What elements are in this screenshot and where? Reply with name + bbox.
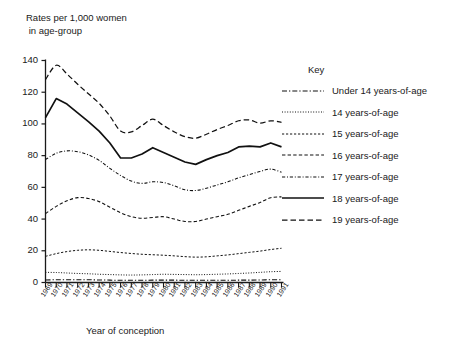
- series-line: [46, 271, 282, 275]
- legend-item: 15 years-of-age: [282, 123, 450, 145]
- legend-line-swatch: [282, 129, 324, 139]
- legend-item-label: 15 years-of-age: [332, 128, 399, 139]
- y-tick-label: 60: [12, 181, 38, 192]
- legend-line-swatch: [282, 107, 324, 117]
- series-line: [46, 99, 282, 165]
- legend-line-swatch: [282, 215, 324, 225]
- legend-line-swatch: [282, 193, 324, 203]
- legend-item-label: 19 years-of-age: [332, 214, 399, 225]
- y-tick-label: 0: [12, 276, 38, 287]
- series-line: [46, 248, 282, 257]
- axes: [46, 60, 284, 283]
- x-axis-label: Year of conception: [86, 325, 164, 336]
- legend-item-label: 17 years-of-age: [332, 171, 399, 182]
- series-line: [46, 280, 282, 281]
- y-tick-label: 100: [12, 117, 38, 128]
- series-line: [46, 197, 282, 222]
- legend-item-label: Under 14 years-of-age: [332, 85, 427, 96]
- legend-line-swatch: [282, 86, 324, 96]
- y-tick-label: 140: [12, 54, 38, 65]
- legend-title: Key: [308, 64, 324, 75]
- chart-container: Rates per 1,000 women in age-group 02040…: [0, 0, 451, 345]
- legend-item: 14 years-of-age: [282, 102, 450, 124]
- legend-line-swatch: [282, 172, 324, 182]
- legend-item-label: 16 years-of-age: [332, 150, 399, 161]
- legend-item-label: 18 years-of-age: [332, 193, 399, 204]
- legend-item: 19 years-of-age: [282, 209, 450, 231]
- legend-item: Under 14 years-of-age: [282, 80, 450, 102]
- y-tick-label: 80: [12, 149, 38, 160]
- series-line: [46, 65, 282, 138]
- legend: Under 14 years-of-age14 years-of-age15 y…: [282, 80, 450, 231]
- data-series-group: [46, 65, 282, 280]
- legend-item: 18 years-of-age: [282, 188, 450, 210]
- legend-item: 17 years-of-age: [282, 166, 450, 188]
- y-tick-label: 40: [12, 213, 38, 224]
- legend-item: 16 years-of-age: [282, 145, 450, 167]
- y-tick-label: 120: [12, 86, 38, 97]
- y-tick-label: 20: [12, 244, 38, 255]
- legend-line-swatch: [282, 150, 324, 160]
- legend-item-label: 14 years-of-age: [332, 107, 399, 118]
- series-line: [46, 151, 282, 191]
